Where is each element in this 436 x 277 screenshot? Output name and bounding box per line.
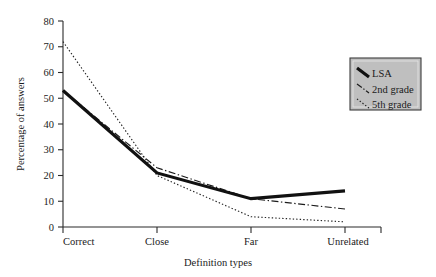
y-tick-label-70: 70 (44, 41, 55, 52)
x-tick-label-far: Far (244, 236, 259, 247)
legend: LSA 2nd grade 5th grade (350, 58, 421, 110)
x-axis-title: Definition types (184, 257, 252, 268)
x-tick-label-correct: Correct (63, 236, 95, 247)
series-line-2nd-grade (63, 91, 345, 209)
legend-label-5th-grade: 5th grade (372, 99, 412, 110)
series-line-lsa (63, 91, 345, 199)
y-tick-label-30: 30 (44, 144, 55, 155)
x-tick-label-close: Close (145, 236, 169, 247)
x-axis-ticks (63, 227, 381, 233)
legend-label-2nd-grade: 2nd grade (372, 84, 414, 95)
y-tick-label-80: 80 (44, 16, 55, 27)
line-chart: 0 10 20 30 40 50 60 70 80 Correct Close … (0, 0, 436, 277)
x-tick-label-unrelated: Unrelated (327, 236, 369, 247)
y-axis-title: Percentage of answers (15, 77, 26, 171)
y-tick-label-10: 10 (44, 196, 55, 207)
y-tick-label-0: 0 (49, 222, 54, 233)
y-tick-label-60: 60 (44, 67, 55, 78)
y-tick-label-20: 20 (44, 170, 55, 181)
y-tick-label-50: 50 (44, 93, 55, 104)
figure-container: 0 10 20 30 40 50 60 70 80 Correct Close … (0, 0, 436, 277)
legend-label-lsa: LSA (372, 68, 392, 79)
y-axis-ticks (58, 21, 63, 227)
y-tick-label-40: 40 (44, 119, 55, 130)
